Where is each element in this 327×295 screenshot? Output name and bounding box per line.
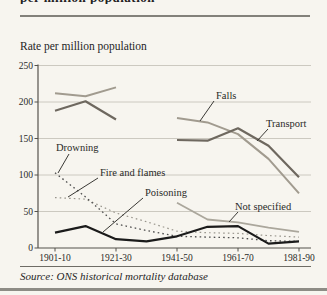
y-tick-label: 250 [19, 61, 34, 71]
y-tick-labels: 050100150200250 [19, 61, 38, 254]
annotation-poisoning: Poisoning [103, 187, 188, 232]
annotation-label: Falls [216, 90, 236, 101]
annotation-transport: Transport [257, 118, 307, 141]
annotation-label: Transport [266, 118, 307, 129]
annotation-label: Poisoning [145, 187, 188, 198]
y-tick-label: 50 [24, 207, 34, 217]
chart-page: per million population Rate per million … [0, 0, 327, 295]
annotation-drowning: Drowning [56, 142, 99, 173]
annotation-leader-line [103, 198, 143, 232]
source-note: Source: ONS historical mortality databas… [20, 270, 208, 282]
annotation-leader-line [200, 101, 214, 121]
y-tick-label: 0 [28, 243, 33, 253]
x-tick-label: 1961-70 [222, 253, 254, 263]
x-tick-label: 1941-50 [161, 253, 193, 263]
annotation-label: Drowning [56, 142, 99, 153]
annotation-not-specified: Not specified [229, 201, 292, 222]
annotation-label: Fire and flames [100, 167, 165, 178]
y-tick-label: 200 [19, 97, 34, 107]
y-tick-label: 150 [19, 134, 34, 144]
annotation-leader-line [58, 154, 69, 173]
y-tick-label: 100 [19, 170, 34, 180]
x-tick-labels: 1901-101921-301941-501961-701981-90 [39, 248, 315, 263]
x-tick-label: 1981-90 [283, 253, 315, 263]
source-divider [20, 266, 311, 267]
series-transport [55, 101, 299, 177]
annotation-label: Not specified [235, 201, 292, 212]
x-tick-label: 1901-10 [39, 253, 71, 263]
annotation-falls: Falls [200, 90, 236, 121]
annotation-leader-line [257, 129, 268, 141]
series-poisoning [55, 226, 299, 244]
axes [38, 65, 311, 249]
line-chart: 0501001502002501901-101921-301941-501961… [0, 0, 327, 295]
bottom-divider [0, 288, 327, 291]
annotation-leader-line [68, 178, 98, 197]
x-tick-label: 1921-30 [100, 253, 132, 263]
annotation-leader-line [229, 212, 238, 222]
